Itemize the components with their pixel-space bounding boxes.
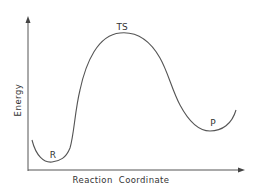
transition-state-label: TS (115, 22, 127, 32)
x-axis-label: Reaction Coordinate (73, 175, 170, 185)
x-axis (28, 168, 245, 173)
energy-diagram: TS R P Energy Reaction Coordinate (0, 0, 254, 195)
y-axis-label: Energy (13, 84, 23, 117)
reactant-label: R (50, 150, 56, 160)
y-axis (26, 16, 31, 171)
product-label: P (210, 118, 216, 128)
y-axis-arrow-icon (26, 16, 31, 23)
x-axis-arrow-icon (238, 168, 245, 173)
energy-curve (32, 33, 236, 162)
